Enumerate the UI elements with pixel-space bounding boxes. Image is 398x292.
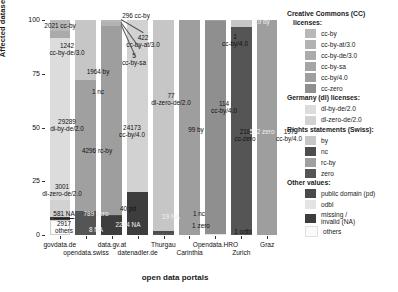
bar-value-label: 1964 by bbox=[87, 68, 110, 75]
bar-value-label: 40 pd bbox=[120, 205, 136, 212]
legend-item[interactable]: others bbox=[287, 226, 398, 237]
legend-item[interactable]: cc-zero bbox=[287, 83, 398, 94]
legend-label: dl-by-de/2.0 bbox=[321, 105, 356, 112]
bar-value-label: 1cc-by/4.0 bbox=[222, 33, 248, 48]
legend-swatch bbox=[305, 40, 316, 49]
x-tick-label: opendata.swiss bbox=[63, 249, 108, 256]
bar-segment[interactable] bbox=[231, 20, 252, 27]
legend-label: odbl bbox=[321, 201, 333, 208]
legend-item[interactable]: cc-by bbox=[287, 28, 398, 39]
legend-swatch bbox=[305, 200, 316, 209]
bar-value-label: 19 NA bbox=[162, 213, 180, 220]
legend-swatch bbox=[305, 62, 316, 71]
legend-item[interactable]: cc-by-de/3.0 bbox=[287, 50, 398, 61]
legend-item[interactable]: cc-by-at/3.0 bbox=[287, 39, 398, 50]
x-tick-mark bbox=[267, 236, 268, 239]
x-tick-mark bbox=[215, 236, 216, 239]
legend-swatch bbox=[305, 226, 318, 237]
bar-segment[interactable] bbox=[205, 234, 226, 235]
bar-value-label: 114cc-by/4.0 bbox=[211, 100, 237, 115]
legend-swatch bbox=[305, 214, 316, 223]
legend-item[interactable]: dl-by-de/2.0 bbox=[287, 104, 398, 115]
legend-label: cc-by bbox=[321, 30, 337, 37]
bar-segment[interactable] bbox=[153, 231, 174, 233]
bar-segment[interactable] bbox=[101, 20, 122, 22]
legend-item[interactable]: nc bbox=[287, 146, 398, 157]
legend-group-title: Creative Commons (CC) bbox=[287, 10, 398, 18]
bar-segment[interactable] bbox=[205, 20, 226, 21]
bar-value-label: 29289di-by-de/2.0 bbox=[50, 118, 84, 133]
legend-item[interactable]: missing / invalid (NA) bbox=[287, 210, 398, 226]
legend-item[interactable]: odbl bbox=[287, 199, 398, 210]
bar-value-label: 3001dl-zero-de/2.0 bbox=[42, 183, 81, 198]
legend-swatch bbox=[305, 189, 316, 198]
bar-value-label: 296 cc-by bbox=[122, 12, 150, 19]
legend-swatch bbox=[305, 116, 316, 125]
legend-item[interactable]: rc-by bbox=[287, 157, 398, 168]
bar-stack[interactable] bbox=[153, 20, 174, 235]
legend-item[interactable]: cc-by/4.0 bbox=[287, 72, 398, 83]
legend-label: cc-by-de/3.0 bbox=[321, 52, 357, 59]
x-tick-mark bbox=[112, 236, 113, 239]
legend-label: cc-by-sa bbox=[321, 63, 346, 70]
x-tick-mark bbox=[86, 236, 87, 239]
legend-label: cc-by-at/3.0 bbox=[321, 41, 355, 48]
bar-segment[interactable] bbox=[205, 21, 226, 234]
legend-swatch bbox=[305, 158, 316, 167]
bar-value-label: 1242cc-by-de/3.0 bbox=[49, 42, 84, 57]
x-tick-label: Carinthia bbox=[176, 249, 202, 256]
y-tick-mark bbox=[42, 235, 45, 236]
x-tick-label: govdata.de bbox=[43, 241, 76, 248]
y-tick-mark bbox=[42, 20, 45, 21]
bar-value-label: 77dl-zero-de/2.0 bbox=[151, 92, 190, 107]
legend-swatch bbox=[305, 84, 316, 93]
legend-item[interactable]: public domain (pd) bbox=[287, 188, 398, 199]
bar-segment[interactable] bbox=[101, 26, 122, 216]
x-tick-mark bbox=[60, 236, 61, 239]
x-tick-mark bbox=[138, 236, 139, 239]
y-tick-label: 50 bbox=[20, 124, 40, 131]
x-tick-mark bbox=[164, 236, 165, 239]
bar-value-label: 1 zero bbox=[192, 222, 210, 229]
bar-value-label: 1 nc bbox=[92, 88, 104, 95]
y-tick-label: 25 bbox=[20, 177, 40, 184]
y-tick-label: 100 bbox=[20, 16, 40, 23]
legend-group-title: Rights statements (Swiss): bbox=[287, 126, 398, 134]
bar-segment[interactable] bbox=[50, 31, 71, 38]
bar-value-label: 1 nc bbox=[193, 210, 205, 217]
legend-label: missing / invalid (NA) bbox=[321, 211, 355, 226]
legend-item[interactable]: by bbox=[287, 135, 398, 146]
bar-value-label: 542 zero bbox=[250, 128, 275, 135]
legend-swatch bbox=[305, 147, 316, 156]
bar-segment[interactable] bbox=[127, 192, 148, 235]
bar-value-label: 581 NA bbox=[53, 210, 74, 219]
bar-segment[interactable] bbox=[153, 233, 174, 235]
legend-label: zero bbox=[321, 170, 334, 177]
legend-label: cc-zero bbox=[321, 85, 343, 92]
legend-item[interactable]: dl-zero-de/2.0 bbox=[287, 115, 398, 126]
bar-value-label: 4296 rc-by bbox=[82, 147, 112, 154]
legend-swatch bbox=[305, 51, 316, 60]
bar-value-label: 1 odbl bbox=[234, 228, 251, 235]
y-tick-label: 75 bbox=[20, 70, 40, 77]
legend-item[interactable]: cc-by-sa bbox=[287, 61, 398, 72]
bar-value-label: 2244 NA bbox=[116, 221, 141, 228]
bar-segment[interactable] bbox=[153, 20, 174, 231]
legend-label: by bbox=[321, 137, 328, 144]
legend-swatch bbox=[305, 105, 316, 114]
y-axis-title: Affected datasets (%) bbox=[0, 0, 7, 78]
x-tick-label: Zurich bbox=[232, 249, 250, 256]
legend-label: others bbox=[323, 228, 341, 235]
bar-segment[interactable] bbox=[101, 22, 122, 25]
x-tick-label: Graz bbox=[260, 241, 274, 248]
chart-root: Affected datasets (%) 0255075100 2021 cc… bbox=[0, 0, 398, 292]
legend-label: rc-by bbox=[321, 159, 336, 166]
x-tick-label: Opendata.HRO bbox=[193, 241, 238, 248]
legend-swatch bbox=[305, 29, 316, 38]
y-tick-mark bbox=[42, 128, 45, 129]
bar-stack[interactable] bbox=[205, 20, 226, 235]
y-tick-mark bbox=[42, 74, 45, 75]
legend-group-title: Other values: bbox=[287, 179, 398, 187]
x-tick-label: datenadler.de bbox=[118, 249, 158, 256]
legend-item[interactable]: zero bbox=[287, 168, 398, 179]
